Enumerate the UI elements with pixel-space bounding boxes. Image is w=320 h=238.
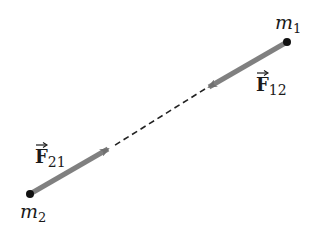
force-label-f12: F12 [256, 71, 287, 99]
force-arrow-f12 [209, 42, 287, 87]
mass-label-m2: m2 [20, 200, 46, 225]
svg-text:F21: F21 [35, 146, 66, 170]
svg-text:F12: F12 [256, 74, 287, 98]
gravitational-force-diagram: m1 m2 F12 F21 [0, 0, 320, 238]
mass-dot-m2 [26, 190, 34, 198]
line-of-action-dashed [112, 89, 205, 147]
mass-dot-m1 [283, 38, 291, 46]
force-label-f21: F21 [35, 143, 66, 171]
mass-label-m1: m1 [275, 11, 301, 36]
